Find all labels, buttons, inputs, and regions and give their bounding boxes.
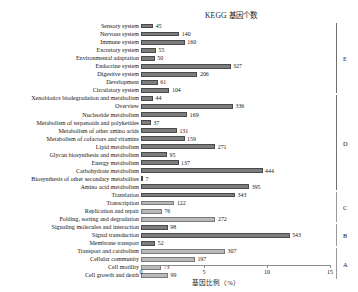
bar (141, 152, 167, 157)
x-axis-tick-label: 0 (140, 269, 143, 275)
bar-category-label: Folding, sorting and degradation (59, 215, 139, 223)
bar (141, 249, 225, 254)
bar-value-label: 444 (265, 167, 274, 175)
bar-row: Lipid metabolism271 (0, 143, 358, 151)
bar (141, 40, 185, 45)
x-axis-tick-label: 15 (327, 269, 333, 275)
bar-row: Cellular community197 (0, 255, 358, 263)
bar (141, 56, 155, 61)
bar-value-label: 137 (181, 159, 190, 167)
bar-value-label: 543 (292, 231, 301, 239)
bar-category-label: Energy metabolism (92, 159, 139, 167)
bar-track: 206 (141, 70, 330, 78)
bar (141, 72, 197, 77)
bar-value-label: 271 (218, 143, 227, 151)
bar-value-label: 272 (218, 215, 227, 223)
x-axis-tick (141, 265, 142, 268)
bar-row: Amino acid metabolism395 (0, 183, 358, 191)
bar-category-label: Cell motility (108, 263, 139, 271)
bar-value-label: 336 (235, 102, 244, 110)
bar-row: Signaling molecules and interaction98 (0, 223, 358, 231)
bar (141, 225, 168, 230)
bar-row: Translation343 (0, 191, 358, 199)
bar (141, 32, 179, 37)
bar (141, 160, 179, 165)
bar (141, 144, 215, 149)
bar-value-label: 343 (237, 191, 246, 199)
bar-row: Environmental adaptation50 (0, 54, 358, 62)
bar-category-label: Environmental adaptation (76, 54, 139, 62)
bar-value-label: 55 (159, 46, 165, 54)
group-bracket (336, 224, 337, 246)
bar-category-label: Overview (115, 102, 139, 110)
bar-value-label: 7 (145, 175, 148, 183)
bar (141, 233, 290, 238)
bar-track: 104 (141, 86, 330, 94)
bar (141, 48, 156, 53)
bar-category-label: Nervous system (100, 30, 139, 38)
bar (141, 64, 231, 69)
bar-row: Development61 (0, 78, 358, 86)
bar (141, 193, 235, 198)
bar (141, 241, 155, 246)
bar-track: 160 (141, 38, 330, 46)
bar-value-label: 98 (170, 223, 176, 231)
group-bracket-label: E (343, 55, 347, 62)
x-axis-line (141, 265, 330, 266)
bar-row: Glycan biosynthesis and metabolism95 (0, 151, 358, 159)
bar-row: Nucleotide metabolism169 (0, 111, 358, 119)
bar-value-label: 395 (252, 183, 261, 191)
bar-row: Nervous system140 (0, 30, 358, 38)
bar (141, 176, 143, 181)
bar-value-label: 327 (233, 62, 242, 70)
bar-track: 95 (141, 151, 330, 159)
group-bracket-label: B (343, 232, 347, 239)
kegg-bar-chart: KEGG 基因个数 Sensory system45Nervous system… (0, 0, 358, 292)
bar (141, 184, 249, 189)
bar-row: Circulatory system104 (0, 86, 358, 94)
bar-track: 159 (141, 135, 330, 143)
bar-category-label: Development (106, 78, 139, 86)
bar-category-label: Immune system (100, 38, 139, 46)
group-bracket (336, 248, 337, 278)
bar-value-label: 52 (158, 239, 164, 247)
bar-row: Folding, sorting and degradation272 (0, 215, 358, 223)
chart-title: KEGG 基因个数 (205, 9, 315, 20)
bar-row: Digestive system206 (0, 70, 358, 78)
bar-value-label: 169 (190, 111, 199, 119)
group-bracket (336, 95, 337, 190)
bar-rows: Sensory system45Nervous system140Immune … (0, 22, 358, 280)
bar (141, 257, 195, 262)
bar-track: 343 (141, 191, 330, 199)
bar (141, 120, 151, 125)
bar (141, 112, 187, 117)
bar-track: 122 (141, 199, 330, 207)
bar-value-label: 95 (170, 151, 176, 159)
bar-value-label: 45 (156, 22, 162, 30)
x-axis-tick (330, 265, 331, 268)
bar-value-label: 131 (179, 127, 188, 135)
bar-track: 44 (141, 94, 330, 102)
bar-value-label: 44 (156, 94, 162, 102)
bar-value-label: 307 (228, 247, 237, 255)
bar-row: Xenobiotics biodegradation and metabolis… (0, 94, 358, 102)
bar-track: 52 (141, 239, 330, 247)
bar-track: 271 (141, 143, 330, 151)
bar-track: 336 (141, 102, 330, 110)
bar-category-label: Circulatory system (93, 86, 139, 94)
bar-category-label: Carbohydrate metabolism (76, 167, 139, 175)
group-bracket-label: C (343, 204, 347, 211)
bar-row: Membrane transport52 (0, 239, 358, 247)
bar-row: Signal transduction543 (0, 231, 358, 239)
bar-track: 98 (141, 223, 330, 231)
bar-row: Transcription122 (0, 199, 358, 207)
bar-row: Overview336 (0, 102, 358, 110)
bar-category-label: Excretory system (97, 46, 139, 54)
bar-category-label: Metabolism of cofactors and vitamins (47, 135, 139, 143)
bar-track: 307 (141, 247, 330, 255)
bar-value-label: 197 (197, 255, 206, 263)
bar-category-label: Membrane transport (89, 239, 139, 247)
group-bracket (336, 192, 337, 222)
bar-category-label: Signaling molecules and interaction (52, 223, 140, 231)
bar (141, 96, 153, 101)
